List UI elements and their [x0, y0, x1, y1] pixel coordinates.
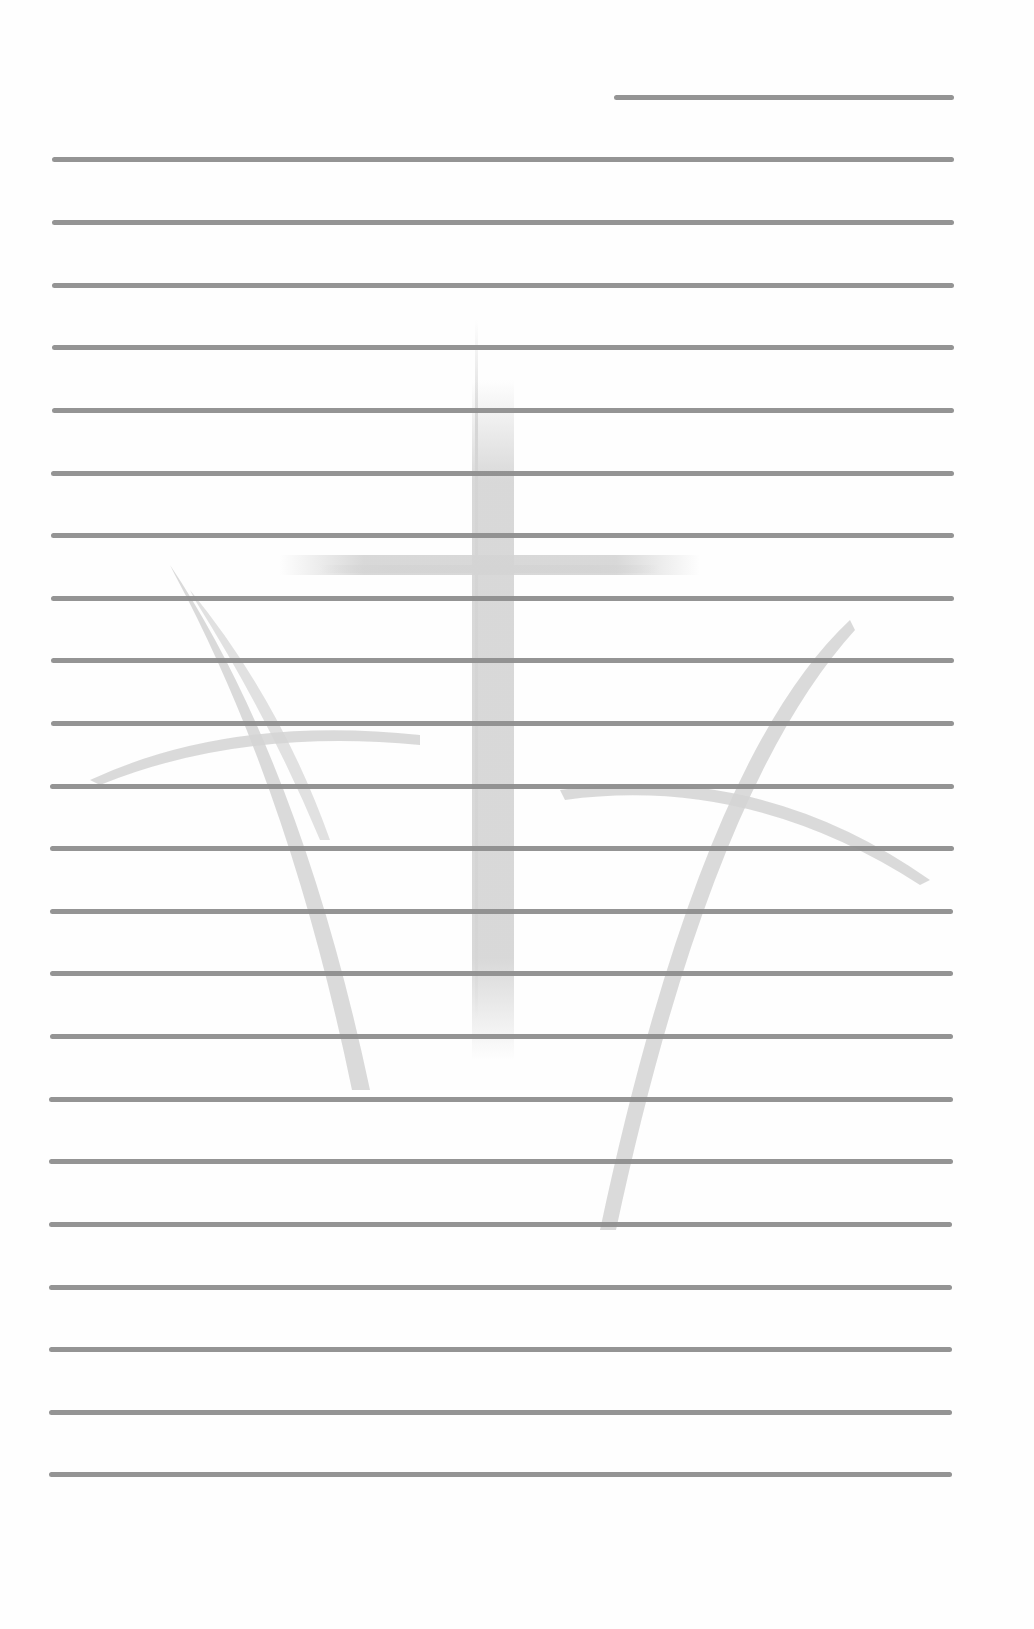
ruled-line — [50, 846, 954, 851]
ruled-line — [49, 1410, 952, 1415]
ruled-line — [52, 157, 954, 162]
ruled-line — [50, 784, 954, 789]
ruled-line — [49, 1159, 953, 1164]
ruled-line — [51, 721, 954, 726]
ruled-line — [51, 658, 954, 663]
center-cross-icon — [280, 320, 700, 1060]
ruled-line — [50, 909, 953, 914]
ruled-line — [49, 1285, 952, 1290]
ruled-line — [50, 971, 953, 976]
ruled-line — [51, 596, 954, 601]
ruled-line — [49, 1472, 952, 1477]
ruled-line — [52, 345, 954, 350]
ruled-line — [49, 1097, 953, 1102]
ruled-line — [50, 1034, 953, 1039]
ruled-line — [51, 533, 954, 538]
ruled-line — [52, 408, 954, 413]
ruled-line — [49, 1222, 952, 1227]
three-crosses-icon — [0, 0, 1034, 1629]
ruled-line — [52, 283, 954, 288]
ruled-line — [49, 1347, 952, 1352]
right-cross-icon — [560, 620, 930, 1230]
ruled-line — [51, 471, 954, 476]
lined-paper-page — [0, 0, 1034, 1629]
ruled-line — [52, 220, 954, 225]
left-cross-icon — [90, 565, 420, 1090]
date-line — [614, 95, 954, 100]
